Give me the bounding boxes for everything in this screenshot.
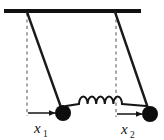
label-x2-symbol: x	[120, 121, 128, 137]
pendulum-bob-left	[55, 105, 71, 121]
label-x1-symbol: x	[33, 120, 41, 136]
pendulum-bob-right	[142, 106, 158, 122]
figure-background	[0, 0, 164, 139]
label-x1-subscript: 1	[43, 129, 48, 139]
coupled-pendulum-figure: x 1 x 2	[0, 0, 164, 139]
coupled-pendulum-diagram: x 1 x 2	[0, 0, 164, 139]
label-x2-subscript: 2	[130, 130, 135, 140]
